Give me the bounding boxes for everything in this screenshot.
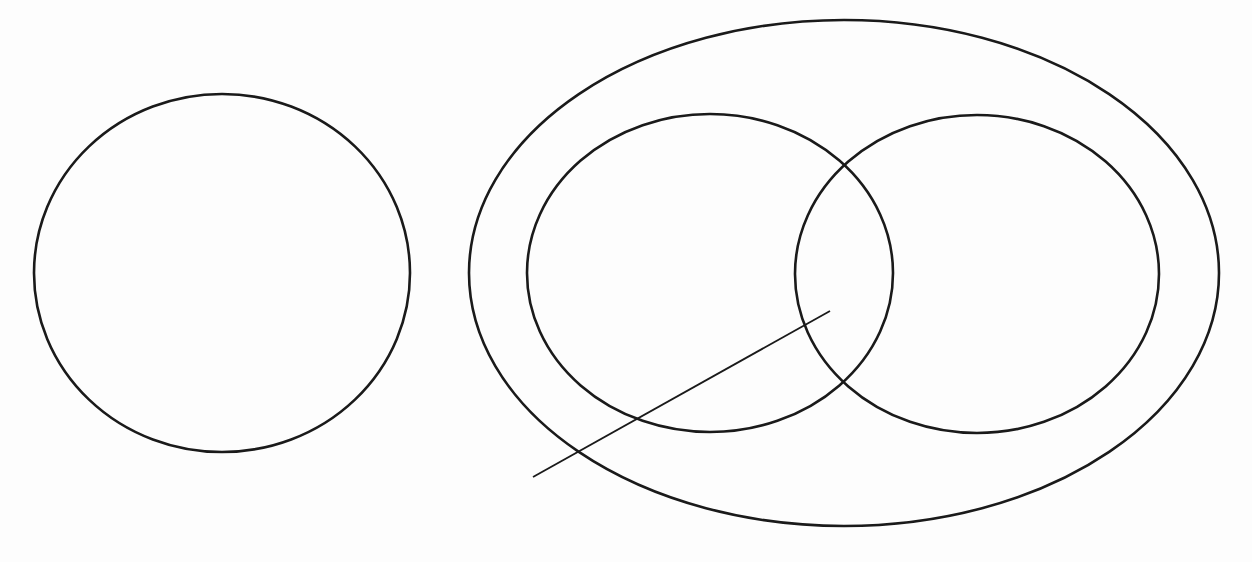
venn-diagram xyxy=(0,0,1252,562)
